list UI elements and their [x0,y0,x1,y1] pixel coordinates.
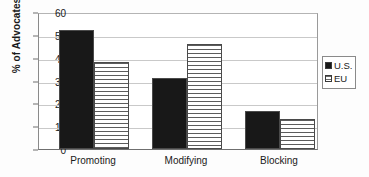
legend-label-eu: EU [334,74,347,83]
legend-swatch-eu-icon [325,75,332,82]
legend-label-us: U.S. [334,61,352,70]
bar-us-modifying [152,78,187,149]
x-tick-label-modifying: Modifying [165,155,208,166]
y-axis-title: % of Advocates [11,0,22,96]
x-tick-label-blocking: Blocking [260,155,298,166]
bar-us-blocking [245,111,280,149]
legend: U.S. EU [322,56,356,89]
grid-and-bars-layer [38,13,318,150]
bar-chart: % of Advocates 60 50 40 30 20 10 0 Promo… [0,0,369,177]
legend-swatch-us-icon [325,62,332,69]
bar-eu-blocking [280,119,315,149]
legend-item-us: U.S. [325,59,352,72]
bar-us-promoting [59,30,94,149]
legend-item-eu: EU [325,72,352,85]
bar-eu-promoting [94,62,129,149]
x-tick-label-promoting: Promoting [70,155,116,166]
bar-eu-modifying [187,44,222,149]
